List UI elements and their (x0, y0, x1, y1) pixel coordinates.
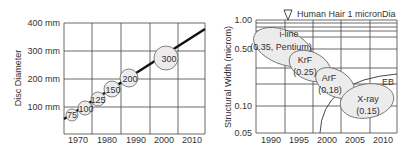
label-x-ray-value: (0.15) (356, 106, 380, 116)
label-krf-value: (0.25) (293, 67, 317, 77)
right-x-ticks: 1990 1995 2000 2005 2010 (261, 135, 393, 145)
left-xtick: 2000 (154, 135, 174, 145)
bubble-label-300: 300 (161, 54, 176, 64)
bubble-label-200: 200 (122, 74, 137, 84)
right-xtick: 1990 (261, 135, 281, 145)
right-y-ticks: 1.00 0.50 0.10 0.05 (234, 15, 252, 138)
label-i-line: i-line (279, 29, 298, 39)
left-y-axis-label: Disc Diameter (13, 50, 23, 107)
left-chart: 75 100 125 150 200 300 400 mm 300 mm 200… (13, 18, 205, 145)
right-xtick: 2000 (317, 135, 337, 145)
right-xtick: 1995 (289, 135, 309, 145)
left-xtick: 1980 (97, 135, 117, 145)
left-x-ticks: 1970 1980 1990 2000 2010 (68, 135, 202, 145)
right-ytick: 0.05 (234, 128, 252, 138)
left-xtick: 2010 (182, 135, 202, 145)
left-xtick: 1970 (68, 135, 88, 145)
right-ytick: 1.00 (234, 15, 252, 25)
right-ytick: 0.50 (234, 44, 252, 54)
triangle-down-icon (284, 10, 292, 20)
left-xtick: 1990 (126, 135, 146, 145)
figure: 75 100 125 150 200 300 400 mm 300 mm 200… (0, 0, 410, 156)
left-ytick: 200 mm (27, 74, 60, 84)
left-ytick: 400 mm (27, 18, 60, 28)
label-arf-value: (0.18) (318, 85, 342, 95)
label-eb: EB (382, 77, 394, 87)
right-chart: i-line (0.35, Pentium) KrF (0.25) ArF (0… (223, 9, 397, 145)
bubble-label-100: 100 (78, 104, 93, 114)
bubble-label-125: 125 (90, 95, 105, 105)
bubble-label-75: 75 (67, 110, 77, 120)
right-xtick: 2010 (373, 135, 393, 145)
bubble-label-150: 150 (105, 85, 120, 95)
left-ytick: 100 mm (27, 102, 60, 112)
label-arf: ArF (322, 73, 337, 83)
label-krf: KrF (298, 55, 313, 65)
label-x-ray: X-ray (357, 94, 379, 104)
right-xtick: 2005 (345, 135, 365, 145)
left-ytick: 300 mm (27, 46, 60, 56)
right-y-axis-label: Structural Width (microm) (223, 26, 233, 128)
right-ytick: 0.10 (234, 101, 252, 111)
left-y-ticks: 400 mm 300 mm 200 mm 100 mm (27, 18, 60, 112)
left-bubbles: 75 100 125 150 200 300 (66, 46, 178, 121)
label-i-line-value: (0.35, Pentium) (250, 42, 312, 52)
charts-svg: 75 100 125 150 200 300 400 mm 300 mm 200… (0, 0, 410, 156)
human-hair-annotation: Human Hair 1 micronDia (297, 9, 396, 19)
